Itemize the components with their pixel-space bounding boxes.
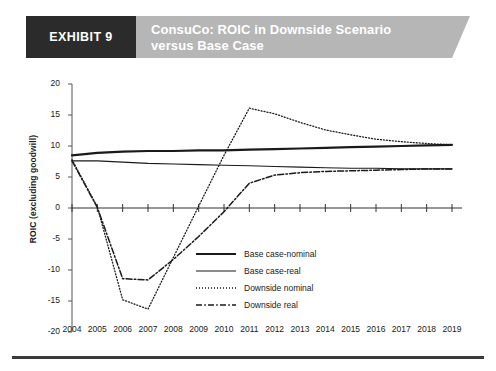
x-tick-label: 2011 bbox=[236, 324, 262, 334]
footer-divider bbox=[12, 356, 484, 359]
y-tick-label: -15 bbox=[48, 295, 60, 305]
x-tick-label: 2004 bbox=[59, 324, 85, 334]
y-tick-label: 5 bbox=[55, 171, 60, 181]
legend-label: Base case-nominal bbox=[244, 249, 316, 259]
y-tick-label: -5 bbox=[52, 233, 60, 243]
x-tick-label: 2018 bbox=[414, 324, 440, 334]
x-tick-label: 2016 bbox=[363, 324, 389, 334]
x-tick-label: 2017 bbox=[388, 324, 414, 334]
x-tick-label: 2019 bbox=[439, 324, 465, 334]
x-tick-label: 2006 bbox=[110, 324, 136, 334]
x-tick-label: 2005 bbox=[84, 324, 110, 334]
chart-legend: Base case-nominalBase case-realDownside … bbox=[196, 247, 316, 311]
x-tick-label: 2008 bbox=[160, 324, 186, 334]
series-line-0 bbox=[72, 145, 452, 156]
x-axis-tick-labels: 2004200520062007200820092010201120122013… bbox=[0, 324, 496, 338]
x-tick-label: 2012 bbox=[262, 324, 288, 334]
legend-swatch-icon bbox=[196, 282, 236, 294]
exhibit-page: EXHIBIT 9 ConsuCo: ROIC in Downside Scen… bbox=[0, 0, 496, 371]
y-tick-label: 15 bbox=[51, 109, 60, 119]
exhibit-title-line-1: ConsuCo: ROIC in Downside Scenario bbox=[151, 22, 470, 38]
exhibit-title-container: ConsuCo: ROIC in Downside Scenario versu… bbox=[136, 16, 470, 58]
x-tick-label: 2015 bbox=[338, 324, 364, 334]
series-line-1 bbox=[72, 161, 452, 169]
y-axis-tick-labels: 20151050-5-10-15-20 bbox=[22, 66, 60, 341]
legend-item[interactable]: Downside real bbox=[196, 298, 316, 311]
exhibit-number-tag: EXHIBIT 9 bbox=[26, 16, 136, 58]
exhibit-title-line-2: versus Base Case bbox=[151, 38, 470, 54]
legend-label: Downside real bbox=[244, 300, 298, 310]
legend-item[interactable]: Base case-nominal bbox=[196, 247, 316, 260]
legend-item[interactable]: Base case-real bbox=[196, 264, 316, 277]
y-tick-label: 0 bbox=[55, 202, 60, 212]
x-tick-label: 2009 bbox=[186, 324, 212, 334]
legend-label: Base case-real bbox=[244, 266, 301, 276]
x-tick-label: 2010 bbox=[211, 324, 237, 334]
x-tick-label: 2014 bbox=[312, 324, 338, 334]
y-tick-label: 10 bbox=[51, 140, 60, 150]
legend-item[interactable]: Downside nominal bbox=[196, 281, 316, 294]
legend-label: Downside nominal bbox=[244, 283, 313, 293]
exhibit-title: ConsuCo: ROIC in Downside Scenario versu… bbox=[136, 16, 470, 53]
exhibit-banner: EXHIBIT 9 ConsuCo: ROIC in Downside Scen… bbox=[26, 16, 470, 58]
legend-swatch-icon bbox=[196, 265, 236, 277]
y-tick-label: 20 bbox=[51, 78, 60, 88]
x-tick-label: 2007 bbox=[135, 324, 161, 334]
legend-swatch-icon bbox=[196, 299, 236, 311]
x-tick-label: 2013 bbox=[287, 324, 313, 334]
y-tick-label: -10 bbox=[48, 264, 60, 274]
legend-swatch-icon bbox=[196, 248, 236, 260]
roic-line-chart: ROIC (excluding goodwill) 20151050-5-10-… bbox=[0, 66, 496, 341]
